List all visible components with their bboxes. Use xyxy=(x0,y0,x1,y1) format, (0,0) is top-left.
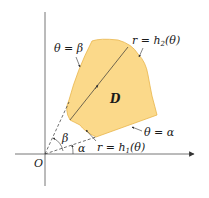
h2-callout-arrow xyxy=(139,48,143,57)
angle-alpha-label: α xyxy=(78,142,86,155)
theta-beta-ray xyxy=(45,102,69,154)
beta-callout-arrow xyxy=(76,57,80,67)
angle-alpha-arc xyxy=(72,145,73,154)
theta-beta-label: θ = β xyxy=(54,42,83,55)
region-label: D xyxy=(109,92,121,106)
angle-beta-label: β xyxy=(61,132,68,145)
inner-curve-label: r = h1(θ) xyxy=(97,141,145,155)
origin-label: O xyxy=(34,157,43,170)
outer-curve-label: r = h2(θ) xyxy=(132,34,180,48)
alpha-callout-arrow xyxy=(132,127,142,131)
theta-alpha-label: θ = α xyxy=(144,126,175,139)
polar-region-diagram: O D θ = β θ = α β α r = h2(θ) r = h1(θ) xyxy=(0,0,209,198)
theta-alpha-ray xyxy=(45,137,96,154)
